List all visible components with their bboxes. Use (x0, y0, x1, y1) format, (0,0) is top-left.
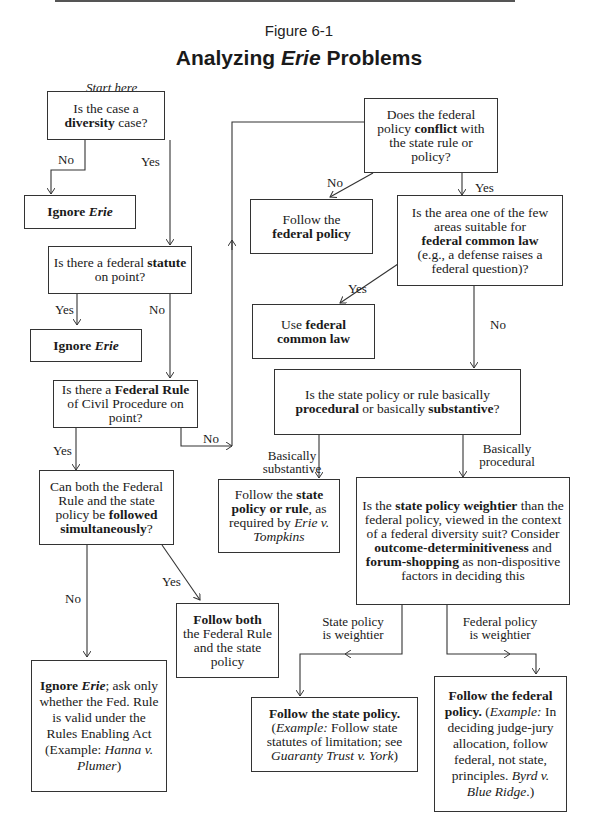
node-ignore-erie-1: Ignore Erie (24, 195, 136, 229)
edge-label-frcp-no: No (203, 432, 219, 445)
edge-label-common-yes: Yes (348, 282, 367, 295)
node-both-question: Can both the Federal Rule and the state … (39, 470, 174, 545)
node-frcp-question: Is there a Federal Rule of Civil Procedu… (53, 380, 198, 428)
edge-label-diversity-no: No (58, 153, 74, 166)
edge-label-frcp-yes: Yes (53, 444, 72, 457)
node-statute-question: Is there a federal statute on point? (48, 246, 192, 294)
node-follow-both: Follow boththe Federal Rule and the stat… (176, 603, 279, 678)
node-ignore-erie-rea: Ignore Erie; ask only whether the Fed. R… (31, 660, 167, 792)
node-diversity-question: Is the case a diversity case? (47, 91, 165, 140)
edge-label-state-weightier: State policy is weightier (318, 615, 388, 641)
edge-label-both-yes: Yes (162, 575, 181, 588)
edge-label-common-no: No (490, 318, 506, 331)
node-use-common-law: Use federal common law (252, 304, 375, 359)
edge-label-federal-weightier: Federal policy is weightier (460, 615, 540, 641)
node-conflict-question: Does the federal policy conflict with th… (364, 98, 498, 173)
node-weightier-question: Is the state policy weightier than the f… (356, 477, 570, 605)
node-follow-state-policy: Follow the state policy. (Example: Follo… (251, 697, 418, 772)
edge-label-diversity-yes: Yes (141, 155, 160, 168)
node-proc-subst-question: Is the state policy or rule basically pr… (274, 369, 521, 435)
node-follow-federal-policy: Follow thefederal policy (250, 199, 373, 254)
edge-label-both-no: No (65, 592, 81, 605)
edge-label-conflict-yes: Yes (475, 181, 494, 194)
edge-label-statute-no: No (149, 303, 165, 316)
node-follow-federal-final: Follow the federal policy. (Example: In … (434, 676, 567, 812)
node-common-law-question: Is the area one of the few areas suitabl… (397, 195, 563, 286)
edge-label-procedural: Basically procedural (474, 442, 540, 468)
edge-label-substantive: Basically substantive (252, 449, 332, 475)
node-ignore-erie-2: Ignore Erie (30, 329, 142, 362)
edge-label-statute-yes: Yes (55, 303, 74, 316)
node-follow-state-rule: Follow the state policy or rule, as requ… (218, 479, 340, 553)
edge-label-conflict-no: No (327, 176, 343, 189)
